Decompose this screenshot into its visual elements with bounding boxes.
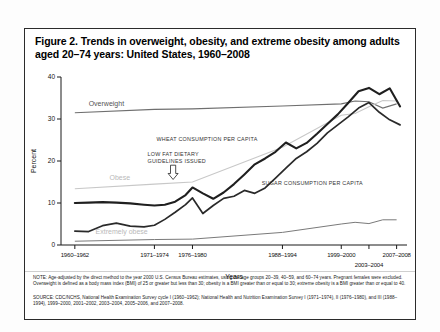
series-label-obese: Obese	[109, 174, 130, 181]
annotation-low-fat-guidelines-line1: LOW FAT DIETARY	[148, 151, 199, 157]
series-label-extremely-obese: Extremely obese	[96, 228, 148, 236]
x-axis-tick-label: 1999–2000	[327, 252, 356, 258]
annotation-low-fat-guidelines-line2: GUIDELINES ISSUED	[148, 158, 206, 164]
figure-container: Figure 2. Trends in overweight, obesity,…	[24, 28, 416, 320]
figure-source: SOURCE: CDC/NCHS, National Health Examin…	[33, 295, 409, 308]
y-axis-title: Percent	[30, 149, 37, 173]
series-line-sugar-consumption	[75, 103, 400, 232]
y-axis-tick-label: 40	[48, 73, 56, 80]
y-axis-tick-label: 10	[48, 199, 56, 206]
figure-title: Figure 2. Trends in overweight, obesity,…	[35, 35, 407, 61]
plot-area: 010203040Percent1960–19621971–19741976–1…	[25, 69, 415, 289]
y-axis-tick-label: 20	[48, 157, 56, 164]
figure-note: NOTE: Age-adjusted by the direct method …	[33, 275, 409, 288]
x-axis-tick-label: 1960–1962	[61, 252, 90, 258]
trend-line-chart: 010203040Percent1960–19621971–19741976–1…	[25, 69, 415, 289]
annotation-wheat-consumption: WHEAT CONSUMPTION PER CAPITA	[156, 136, 257, 142]
x-axis-tick-label: 2003–2004	[355, 262, 384, 268]
down-arrow-icon	[168, 165, 178, 179]
x-axis-tick-label: 1976–1980	[178, 252, 207, 258]
x-axis-tick-label: 1988–1994	[268, 252, 297, 258]
figure-page: Figure 2. Trends in overweight, obesity,…	[0, 0, 440, 332]
footnote-divider	[25, 271, 415, 272]
x-axis-tick-label: 2007–2008	[383, 252, 412, 258]
y-axis-tick-label: 0	[51, 241, 55, 248]
x-axis-tick-label: 1971–1974	[140, 252, 169, 258]
annotation-sugar-consumption: SUGAR CONSUMPTION PER CAPITA	[262, 180, 363, 186]
series-label-overweight: Overweight	[89, 100, 124, 108]
y-axis-tick-label: 30	[48, 115, 56, 122]
